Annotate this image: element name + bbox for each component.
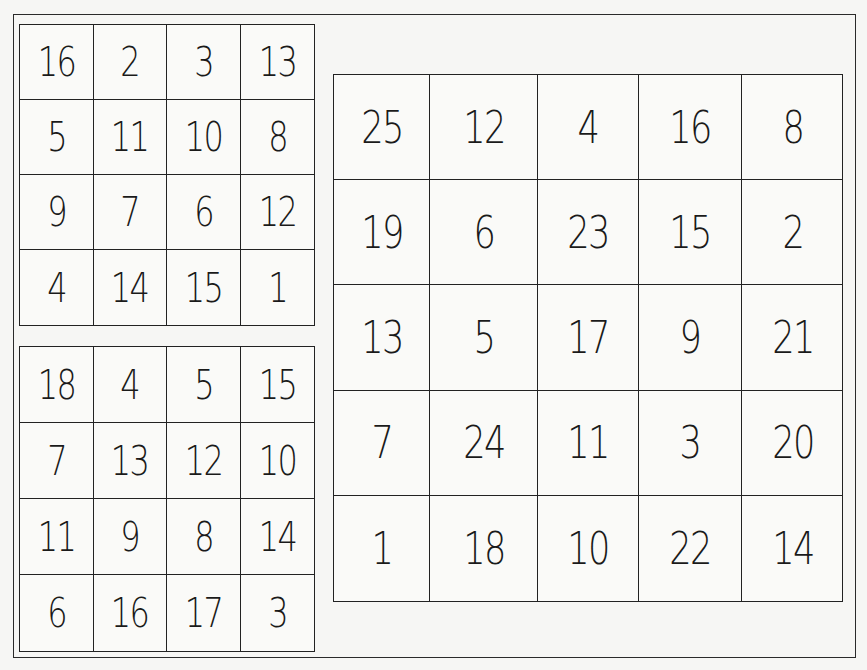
cell-number: 2 <box>782 207 803 258</box>
grid-cell: 20 <box>742 391 843 496</box>
grid-cell: 6 <box>20 575 94 651</box>
grid-cell: 11 <box>20 499 94 575</box>
grid-cell: 11 <box>94 100 168 175</box>
cell-number: 24 <box>463 417 505 468</box>
cell-number: 10 <box>184 114 222 160</box>
cell-number: 16 <box>37 39 75 85</box>
grid-cell: 10 <box>538 496 639 601</box>
cell-number: 11 <box>37 514 75 560</box>
grid-cell: 9 <box>20 175 94 250</box>
grid-cell: 17 <box>167 575 241 651</box>
cell-number: 13 <box>258 39 296 85</box>
cell-number: 15 <box>184 265 222 311</box>
cell-number: 2 <box>120 39 139 85</box>
grid-cell: 15 <box>167 250 241 325</box>
grid-cell: 5 <box>430 285 538 390</box>
grid-cell: 4 <box>538 75 639 180</box>
cell-number: 3 <box>268 590 287 636</box>
grid-cell: 18 <box>430 496 538 601</box>
cell-number: 14 <box>772 523 814 574</box>
cell-number: 17 <box>184 590 222 636</box>
grid-cell: 3 <box>167 25 241 100</box>
cell-number: 3 <box>194 39 213 85</box>
cell-number: 7 <box>47 438 66 484</box>
cell-number: 8 <box>268 114 287 160</box>
grid-cell: 4 <box>94 347 168 423</box>
grid-cell: 14 <box>94 250 168 325</box>
cell-number: 14 <box>258 514 296 560</box>
cell-number: 3 <box>680 417 701 468</box>
grid-cell: 3 <box>639 391 742 496</box>
cell-number: 16 <box>111 590 149 636</box>
cell-number: 13 <box>111 438 149 484</box>
grid-cell: 8 <box>742 75 843 180</box>
cell-number: 11 <box>567 417 609 468</box>
cell-number: 11 <box>111 114 149 160</box>
grid-cell: 10 <box>167 100 241 175</box>
magic-square-4x4-top: 16231351110897612414151 <box>19 24 315 326</box>
grid-cell: 4 <box>20 250 94 325</box>
cell-number: 4 <box>120 362 139 408</box>
grid-cell: 1 <box>334 496 430 601</box>
grid-cell: 12 <box>167 423 241 499</box>
cell-number: 5 <box>47 114 66 160</box>
grid-cell: 19 <box>334 180 430 285</box>
grid-cell: 16 <box>94 575 168 651</box>
grid-cell: 18 <box>20 347 94 423</box>
grid-cell: 8 <box>167 499 241 575</box>
grid-cell: 22 <box>639 496 742 601</box>
cell-number: 6 <box>47 590 66 636</box>
cell-number: 8 <box>782 102 803 153</box>
grid-cell: 14 <box>241 499 315 575</box>
cell-number: 12 <box>463 102 505 153</box>
cell-number: 8 <box>194 514 213 560</box>
grid-cell: 1 <box>241 250 315 325</box>
cell-number: 7 <box>371 417 392 468</box>
cell-number: 16 <box>669 102 711 153</box>
cell-number: 22 <box>669 523 711 574</box>
cell-number: 23 <box>567 207 609 258</box>
grid-cell: 13 <box>334 285 430 390</box>
grid-cell: 8 <box>241 100 315 175</box>
cell-number: 10 <box>258 438 296 484</box>
grid-cell: 24 <box>430 391 538 496</box>
grid-cell: 12 <box>430 75 538 180</box>
cell-number: 17 <box>567 312 609 363</box>
cell-number: 15 <box>669 207 711 258</box>
grid-cell: 15 <box>241 347 315 423</box>
grid-cell: 7 <box>20 423 94 499</box>
grid-cell: 6 <box>430 180 538 285</box>
grid-cell: 15 <box>639 180 742 285</box>
grid-cell: 9 <box>639 285 742 390</box>
cell-number: 12 <box>184 438 222 484</box>
grid-cell: 2 <box>94 25 168 100</box>
grid-cell: 3 <box>241 575 315 651</box>
cell-number: 1 <box>371 523 392 574</box>
magic-square-5x5: 2512416819623152135179217241132011810221… <box>333 74 843 602</box>
grid-cell: 17 <box>538 285 639 390</box>
grid-cell: 16 <box>20 25 94 100</box>
cell-number: 21 <box>772 312 814 363</box>
grid-cell: 23 <box>538 180 639 285</box>
cell-number: 10 <box>567 523 609 574</box>
grid-cell: 13 <box>94 423 168 499</box>
cell-number: 12 <box>258 189 296 235</box>
cell-number: 6 <box>473 207 494 258</box>
magic-square-4x4-bottom: 1845157131210119814616173 <box>19 346 315 652</box>
cell-number: 25 <box>361 102 403 153</box>
cell-number: 20 <box>772 417 814 468</box>
cell-number: 4 <box>47 265 66 311</box>
grid-cell: 7 <box>334 391 430 496</box>
grid-cell: 16 <box>639 75 742 180</box>
grid-cell: 2 <box>742 180 843 285</box>
grid-cell: 14 <box>742 496 843 601</box>
grid-cell: 5 <box>167 347 241 423</box>
grid-cell: 10 <box>241 423 315 499</box>
cell-number: 1 <box>268 265 287 311</box>
grid-cell: 5 <box>20 100 94 175</box>
grid-cell: 6 <box>167 175 241 250</box>
grid-cell: 12 <box>241 175 315 250</box>
cell-number: 6 <box>194 189 213 235</box>
cell-number: 19 <box>361 207 403 258</box>
cell-number: 9 <box>47 189 66 235</box>
